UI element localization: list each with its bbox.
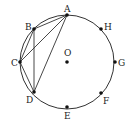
circle-diagram: ABCDEFGHO <box>0 0 132 130</box>
point-d <box>32 90 36 94</box>
label-a: A <box>63 4 71 14</box>
point-b <box>32 27 36 31</box>
segment-bc <box>20 29 34 62</box>
label-g: G <box>118 58 125 68</box>
label-e: E <box>64 111 71 121</box>
label-f: F <box>103 96 109 106</box>
point-e <box>65 105 69 109</box>
point-h <box>99 27 103 31</box>
label-d: D <box>26 95 33 105</box>
label-b: B <box>25 22 32 32</box>
label-c: C <box>11 58 18 68</box>
point-o <box>65 60 69 64</box>
point-c <box>18 60 22 64</box>
label-h: H <box>104 22 112 32</box>
point-g <box>113 60 117 64</box>
label-o: O <box>64 48 71 58</box>
point-f <box>99 91 103 95</box>
